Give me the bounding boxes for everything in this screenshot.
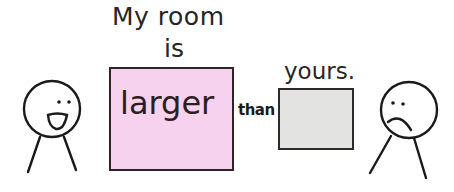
word-larger: larger (120, 84, 214, 122)
caption-is: is (164, 34, 184, 63)
happy-person-icon (0, 70, 100, 180)
small-room-box (278, 88, 354, 150)
caption-my-room: My room (112, 2, 224, 31)
illustration: My room is larger than yours. (0, 0, 454, 192)
word-yours: yours. (284, 58, 355, 84)
sad-person-icon (360, 70, 454, 185)
word-than: than (238, 101, 275, 119)
